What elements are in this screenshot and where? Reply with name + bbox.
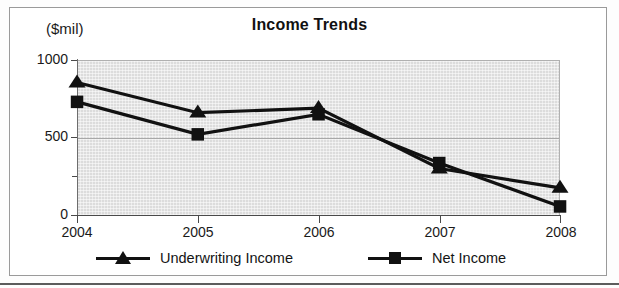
gridline-500 — [77, 138, 559, 139]
x-tick-label-2005: 2005 — [168, 224, 228, 240]
y-tick-mark-500 — [71, 137, 77, 138]
y-tick-mark-1000 — [71, 60, 77, 61]
chart-legend: Underwriting Income Net Income — [96, 246, 536, 270]
x-tick-label-2007: 2007 — [410, 224, 470, 240]
x-tick-mark-2005 — [198, 216, 199, 223]
scan-artifact-line — [0, 283, 619, 285]
y-tick-mark-750 — [72, 98, 77, 99]
legend-label-net-income: Net Income — [432, 250, 506, 266]
x-tick-label-2004: 2004 — [47, 224, 107, 240]
y-tick-label-500: 500 — [16, 128, 68, 144]
x-tick-label-2006: 2006 — [289, 224, 349, 240]
x-tick-label-2008: 2008 — [531, 224, 591, 240]
triangle-marker-icon — [96, 248, 150, 268]
chart-figure: ($mil) Income Trends 1000 500 0 2004 200… — [0, 0, 619, 288]
legend-label-underwriting-income: Underwriting Income — [160, 250, 293, 266]
x-tick-mark-2004 — [77, 216, 78, 223]
chart-title: Income Trends — [0, 16, 619, 34]
plot-area — [77, 60, 560, 215]
legend-item-underwriting-income[interactable]: Underwriting Income — [96, 246, 293, 270]
legend-item-net-income[interactable]: Net Income — [368, 246, 506, 270]
x-tick-mark-2007 — [440, 216, 441, 223]
x-tick-mark-2006 — [319, 216, 320, 223]
x-tick-mark-2008 — [560, 216, 561, 223]
y-axis-line — [77, 59, 78, 216]
square-marker-icon — [368, 248, 422, 268]
y-tick-label-0: 0 — [16, 206, 68, 222]
y-tick-label-1000: 1000 — [16, 51, 68, 67]
y-tick-mark-250 — [72, 176, 77, 177]
